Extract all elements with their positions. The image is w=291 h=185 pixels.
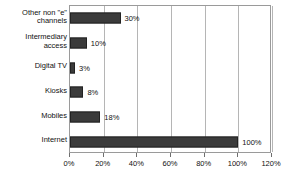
bar-row: 18% <box>70 105 270 130</box>
x-axis-tick-label: 120% <box>261 159 280 168</box>
bar-value-label: 100% <box>242 137 261 146</box>
y-axis-tick-label: Mobiles <box>3 112 67 121</box>
x-axis-tick-label: 40% <box>129 159 144 168</box>
bar-value-label: 10% <box>91 38 106 47</box>
bar-row: 30% <box>70 6 270 31</box>
y-axis-tick: Other non "e" channels <box>0 5 67 30</box>
bar <box>70 13 121 24</box>
x-axis-tick-label: 100% <box>228 159 247 168</box>
x-axis-tick-mark <box>69 153 70 157</box>
bar <box>70 37 87 48</box>
x-axis-tick-mark <box>103 153 104 157</box>
x-axis-tick-label: 60% <box>162 159 177 168</box>
bar-value-label: 8% <box>87 88 98 97</box>
x-axis-tick-label: 20% <box>95 159 110 168</box>
x-axis-tick-mark <box>204 153 205 157</box>
bar <box>70 111 100 122</box>
bar-chart: Other non "e" channelsIntermediary acces… <box>0 0 291 185</box>
bar-value-label: 30% <box>125 14 140 23</box>
y-axis-tick-label: Kiosks <box>3 87 67 96</box>
x-axis-tick-label: 80% <box>196 159 211 168</box>
x-axis-tick-mark <box>271 153 272 157</box>
bar-row: 100% <box>70 129 270 154</box>
y-axis-tick: Digital TV <box>0 54 67 79</box>
bar-row: 3% <box>70 55 270 80</box>
bar <box>70 87 83 98</box>
bar-row: 10% <box>70 31 270 56</box>
plot-area: 30%10%3%8%18%100% <box>69 5 271 153</box>
gridline <box>272 6 273 152</box>
y-axis-tick: Intermediary access <box>0 30 67 55</box>
y-axis-tick: Kiosks <box>0 79 67 104</box>
y-axis-tick-label: Digital TV <box>3 62 67 71</box>
x-axis: 0%20%40%60%80%100%120% <box>69 153 271 181</box>
y-axis-tick-label: Other non "e" channels <box>3 9 67 27</box>
bar-row: 8% <box>70 80 270 105</box>
bar-value-label: 3% <box>79 63 90 72</box>
y-axis-category-labels: Other non "e" channelsIntermediary acces… <box>0 5 67 153</box>
y-axis-tick: Internet <box>0 128 67 153</box>
y-axis-tick-label: Intermediary access <box>3 33 67 51</box>
y-axis-tick: Mobiles <box>0 104 67 129</box>
bar <box>70 136 238 147</box>
bar-value-label: 18% <box>104 112 119 121</box>
x-axis-tick-mark <box>136 153 137 157</box>
x-axis-tick-mark <box>170 153 171 157</box>
x-axis-tick-label: 0% <box>64 159 75 168</box>
bar <box>70 62 75 73</box>
y-axis-tick-label: Internet <box>3 136 67 145</box>
x-axis-tick-mark <box>237 153 238 157</box>
